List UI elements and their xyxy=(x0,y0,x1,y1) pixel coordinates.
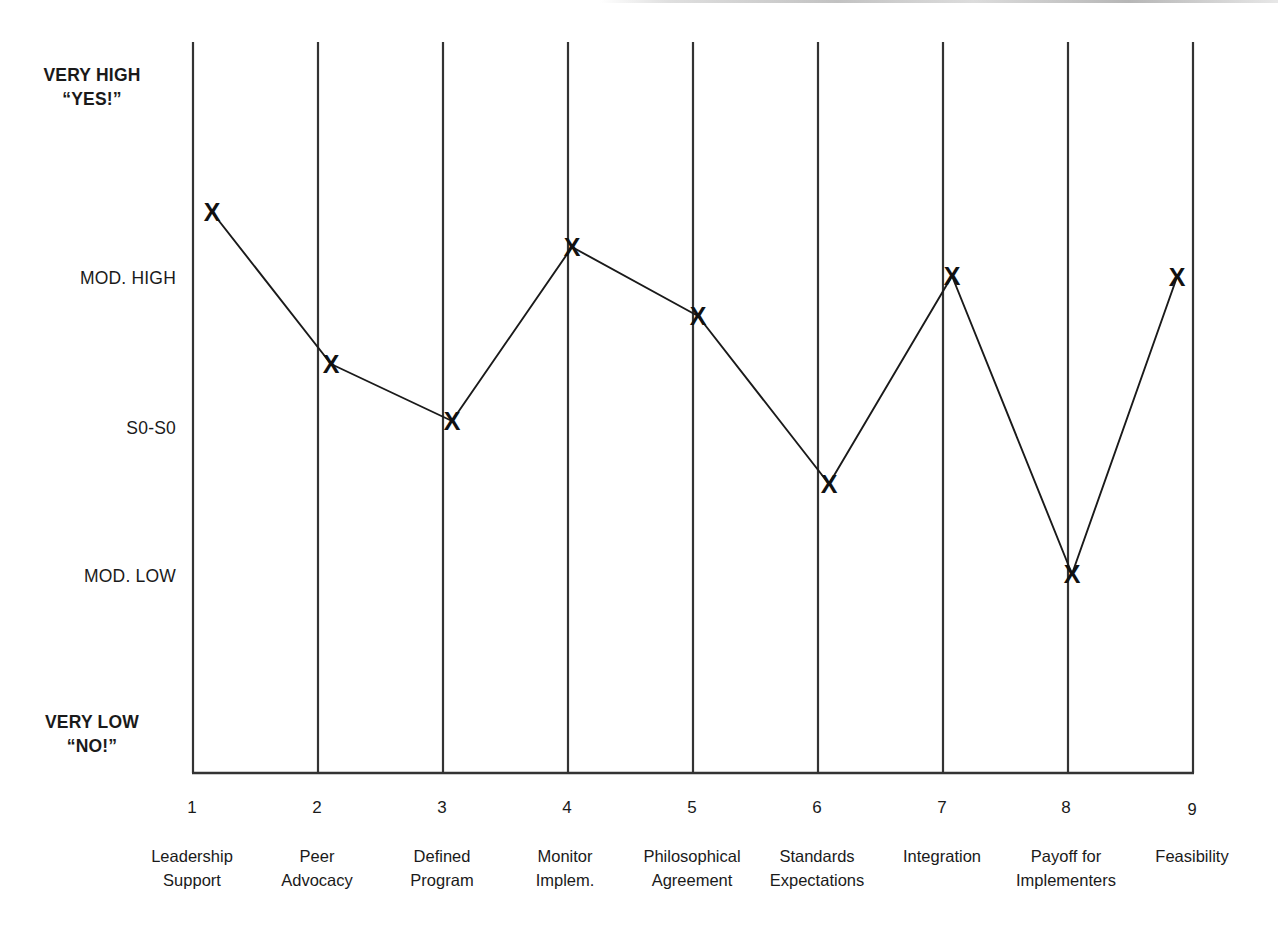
x-category-label-2: Peer Advocacy xyxy=(281,845,353,893)
x-category-label-9: Feasibility xyxy=(1155,845,1228,869)
x-category-label-1: Leadership Support xyxy=(151,845,233,893)
y-axis-label-very-low-line2: “NO!” xyxy=(8,735,176,759)
x-category-label-4-line1: Monitor xyxy=(537,847,592,865)
x-category-label-2-line1: Peer xyxy=(300,847,335,865)
data-point-marker-5: X xyxy=(690,302,707,330)
y-axis-label-very-low: VERY LOW “NO!” xyxy=(8,711,176,758)
x-category-label-6: Standards Expectations xyxy=(770,845,864,893)
x-category-label-8-line1: Payoff for xyxy=(1031,847,1101,865)
x-category-label-8-line2: Implementers xyxy=(1016,869,1116,893)
y-axis-label-very-high-line1: VERY HIGH xyxy=(8,64,176,88)
y-axis-label-so-so-line1: S0-S0 xyxy=(8,417,176,441)
x-tick-number-8: 8 xyxy=(1061,798,1070,818)
gridlines xyxy=(193,42,1193,773)
data-series-line xyxy=(212,212,1177,574)
x-tick-number-9: 9 xyxy=(1187,798,1196,822)
x-category-label-3: Defined Program xyxy=(410,845,473,893)
x-category-label-7: Integration xyxy=(903,845,981,869)
x-category-label-4-line2: Implem. xyxy=(536,869,595,893)
y-axis-label-so-so: S0-S0 xyxy=(8,417,176,441)
x-category-label-3-line2: Program xyxy=(410,869,473,893)
data-point-marker-2: X xyxy=(323,350,340,378)
x-tick-number-4: 4 xyxy=(562,798,571,818)
x-category-label-5-line2: Agreement xyxy=(643,869,740,893)
data-point-marker-4: X xyxy=(564,233,581,261)
y-axis-label-very-high-line2: “YES!” xyxy=(8,88,176,112)
x-category-label-4: Monitor Implem. xyxy=(536,845,595,893)
x-category-label-1-line2: Support xyxy=(151,869,233,893)
y-axis-label-mod-high-line1: MOD. HIGH xyxy=(8,267,176,291)
chart-page: X X X X X X X X X VERY HIGH “YES!” MOD. … xyxy=(0,0,1278,934)
x-tick-number-7: 7 xyxy=(937,798,946,818)
y-axis-label-mod-high: MOD. HIGH xyxy=(8,267,176,291)
data-point-markers: X X X X X X X X X xyxy=(204,198,1186,588)
x-category-label-5: Philosophical Agreement xyxy=(643,845,740,893)
x-category-label-9-line1: Feasibility xyxy=(1155,847,1228,865)
x-category-label-5-line1: Philosophical xyxy=(643,847,740,865)
data-point-marker-8: X xyxy=(1064,560,1081,588)
x-category-label-3-line1: Defined xyxy=(414,847,471,865)
x-tick-number-2: 2 xyxy=(312,798,321,818)
x-category-label-1-line1: Leadership xyxy=(151,847,233,865)
x-tick-number-3: 3 xyxy=(437,798,446,818)
y-axis-label-very-low-line1: VERY LOW xyxy=(8,711,176,735)
y-axis-label-mod-low: MOD. LOW xyxy=(8,565,176,589)
x-category-label-7-line1: Integration xyxy=(903,847,981,865)
x-category-label-6-line1: Standards xyxy=(779,847,854,865)
data-point-marker-9: X xyxy=(1169,263,1186,291)
x-tick-number-1: 1 xyxy=(187,798,196,818)
x-category-label-8: Payoff for Implementers xyxy=(1016,845,1116,893)
y-axis-label-mod-low-line1: MOD. LOW xyxy=(8,565,176,589)
data-point-marker-6: X xyxy=(821,470,838,498)
x-category-label-2-line2: Advocacy xyxy=(281,869,353,893)
data-point-marker-1: X xyxy=(204,198,221,226)
x-tick-number-6: 6 xyxy=(812,798,821,818)
y-axis-label-very-high: VERY HIGH “YES!” xyxy=(8,64,176,111)
x-tick-number-5: 5 xyxy=(687,798,696,818)
line-chart-canvas: X X X X X X X X X xyxy=(0,0,1278,934)
data-point-marker-3: X xyxy=(444,407,461,435)
x-category-label-6-line2: Expectations xyxy=(770,869,864,893)
data-point-marker-7: X xyxy=(944,262,961,290)
